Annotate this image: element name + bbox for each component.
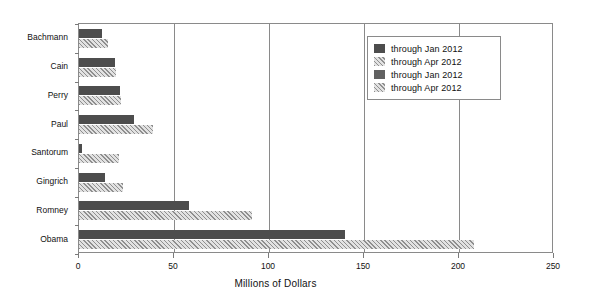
bar: [79, 68, 116, 77]
legend-item: through Apr 2012: [374, 55, 494, 68]
bar-group: [79, 225, 552, 254]
x-axis-tick-label: 0: [76, 261, 81, 271]
y-axis-tick: [75, 53, 79, 54]
legend-swatch-icon: [374, 44, 385, 53]
legend-label: through Jan 2012: [391, 44, 463, 54]
bar: [79, 144, 82, 153]
bar: [79, 58, 115, 67]
bar-group: [79, 139, 552, 168]
bar: [79, 115, 134, 124]
bar: [79, 96, 121, 105]
y-axis-label-obama: Obama: [40, 234, 68, 244]
legend-swatch-icon: [374, 70, 385, 79]
y-axis-tick: [75, 197, 79, 198]
y-axis-label-santorum: Santorum: [31, 147, 68, 157]
x-axis-tick: [78, 253, 79, 258]
x-axis-tick: [173, 253, 174, 258]
legend-label: through Apr 2012: [391, 57, 462, 67]
legend-swatch-icon: [374, 57, 385, 66]
bar: [79, 230, 345, 239]
bar-group: [79, 197, 552, 226]
bar-group: [79, 110, 552, 139]
y-axis-tick: [75, 225, 79, 226]
bar: [79, 29, 102, 38]
x-axis-tick-labels: 050100150200250: [0, 261, 591, 275]
y-axis-tick: [75, 139, 79, 140]
legend-swatch-icon: [374, 83, 385, 92]
x-axis-tick: [553, 253, 554, 258]
y-axis-tick: [75, 110, 79, 111]
y-axis-label-paul: Paul: [51, 119, 68, 129]
y-axis-tick: [75, 168, 79, 169]
legend-label: through Apr 2012: [391, 83, 462, 93]
y-axis-tick: [75, 82, 79, 83]
x-axis-tick-label: 250: [546, 261, 560, 271]
x-axis-title-text: Millions of Dollars: [234, 278, 316, 289]
bar: [79, 211, 252, 220]
legend-item: through Jan 2012: [374, 42, 494, 55]
x-axis-tick-label: 200: [451, 261, 465, 271]
y-axis-tick: [75, 24, 79, 25]
bar-chart-figure: BachmannCainPerryPaulSantorumGingrichRom…: [0, 0, 591, 308]
legend-item: through Jan 2012: [374, 68, 494, 81]
bar: [79, 201, 189, 210]
bar: [79, 173, 105, 182]
bar-group: [79, 168, 552, 197]
bar: [79, 39, 108, 48]
legend-label: through Jan 2012: [391, 70, 463, 80]
x-axis-tick: [268, 253, 269, 258]
y-axis-label-romney: Romney: [36, 205, 68, 215]
bar: [79, 125, 153, 134]
bar: [79, 183, 123, 192]
bar: [79, 86, 120, 95]
chart-legend: through Jan 2012through Apr 2012through …: [367, 36, 501, 100]
x-axis-title: Millions of Dollars: [0, 278, 591, 289]
x-axis-tick: [458, 253, 459, 258]
y-axis-label-bachmann: Bachmann: [27, 32, 68, 42]
y-axis-labels: BachmannCainPerryPaulSantorumGingrichRom…: [0, 23, 73, 253]
x-axis-ticks: [78, 253, 553, 261]
y-axis-label-cain: Cain: [51, 61, 68, 71]
legend-item: through Apr 2012: [374, 81, 494, 94]
y-axis-label-gingrich: Gingrich: [36, 176, 68, 186]
bar: [79, 154, 119, 163]
x-axis-tick-label: 50: [168, 261, 177, 271]
x-axis-tick-label: 100: [261, 261, 275, 271]
bar: [79, 240, 474, 249]
x-axis-tick-label: 150: [356, 261, 370, 271]
y-axis-label-perry: Perry: [48, 90, 68, 100]
x-axis-tick: [363, 253, 364, 258]
